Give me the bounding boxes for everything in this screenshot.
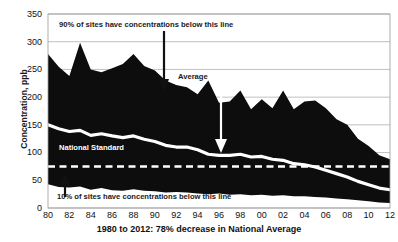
x-tick-04: 04 <box>299 210 309 220</box>
x-tick-96: 96 <box>214 210 224 220</box>
x-tick-82: 82 <box>64 210 74 220</box>
x-axis-tick-labels: 8082848688909294969800020406081012 <box>0 0 398 242</box>
x-axis-title: 1980 to 2012: 78% decrease in National A… <box>0 224 398 234</box>
x-tick-92: 92 <box>171 210 181 220</box>
x-tick-94: 94 <box>193 210 203 220</box>
x-tick-10: 10 <box>364 210 374 220</box>
x-tick-88: 88 <box>128 210 138 220</box>
x-tick-84: 84 <box>86 210 96 220</box>
x-tick-90: 90 <box>150 210 160 220</box>
x-tick-06: 06 <box>321 210 331 220</box>
air-quality-trend-chart: Concentration, ppb 0 50 100 150 200 250 … <box>0 0 398 242</box>
x-tick-12: 12 <box>385 210 395 220</box>
x-tick-00: 00 <box>257 210 267 220</box>
x-tick-08: 08 <box>342 210 352 220</box>
x-tick-86: 86 <box>107 210 117 220</box>
x-tick-98: 98 <box>235 210 245 220</box>
x-tick-02: 02 <box>278 210 288 220</box>
x-tick-80: 80 <box>43 210 53 220</box>
